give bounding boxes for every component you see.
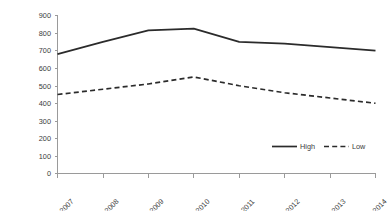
y-tick-label: 300 <box>39 117 51 126</box>
chart-legend: High Low <box>272 142 366 151</box>
x-tick-label: 2008 <box>103 197 121 211</box>
y-tick-label: 700 <box>39 46 51 55</box>
y-tick-label: 900 <box>39 11 51 20</box>
chart-canvas: 0 100 200 300 400 500 600 700 800 900 20… <box>0 0 388 211</box>
series-line-high <box>58 29 376 54</box>
y-axis-ticks: 0 100 200 300 400 500 600 700 800 900 <box>39 11 58 178</box>
legend-label-high: High <box>300 142 315 151</box>
x-tick-label: 2009 <box>148 197 166 211</box>
x-tick-label: 2007 <box>58 197 76 211</box>
legend-label-low: Low <box>352 142 366 151</box>
y-tick-label: 100 <box>39 152 51 161</box>
x-tick-label: 2011 <box>239 197 256 211</box>
line-chart: 0 100 200 300 400 500 600 700 800 900 20… <box>0 0 388 211</box>
x-axis-ticks: 2007 2008 2009 2010 2011 2012 2013 2014 <box>58 174 388 212</box>
x-tick-label: 2014 <box>371 197 388 211</box>
y-tick-label: 200 <box>39 134 51 143</box>
y-tick-label: 400 <box>39 99 51 108</box>
y-tick-label: 800 <box>39 29 51 38</box>
series-line-low <box>58 77 376 103</box>
y-tick-label: 600 <box>39 64 51 73</box>
x-tick-label: 2010 <box>194 197 212 211</box>
y-tick-label: 500 <box>39 82 51 91</box>
x-tick-label: 2012 <box>284 197 302 211</box>
x-tick-label: 2013 <box>330 197 348 211</box>
y-tick-label: 0 <box>47 169 51 178</box>
